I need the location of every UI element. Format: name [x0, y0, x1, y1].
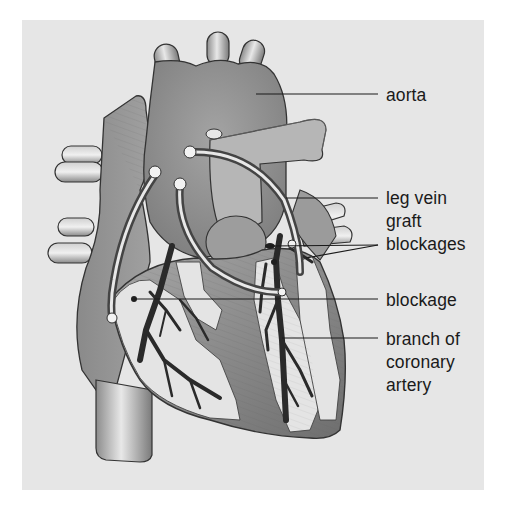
- label-aorta: aorta: [386, 84, 426, 107]
- label-line: blockage: [386, 289, 457, 312]
- leader-blockages-1: [270, 245, 378, 246]
- label-blockage: blockage: [386, 289, 457, 312]
- label-line: blockages: [386, 233, 466, 256]
- label-blockages: blockages: [386, 233, 466, 256]
- label-line: aorta: [386, 84, 426, 107]
- label-line: graft: [386, 210, 447, 233]
- label-line: coronary: [386, 351, 460, 374]
- label-line: artery: [386, 374, 460, 397]
- label-leg-vein-graft: leg vein graft: [386, 187, 447, 233]
- heart-illustration: [0, 0, 510, 517]
- inferior-vena-cava: [96, 380, 152, 462]
- label-line: leg vein: [386, 187, 447, 210]
- label-branch-of-coronary-artery: branch of coronary artery: [386, 328, 460, 397]
- label-line: branch of: [386, 328, 460, 351]
